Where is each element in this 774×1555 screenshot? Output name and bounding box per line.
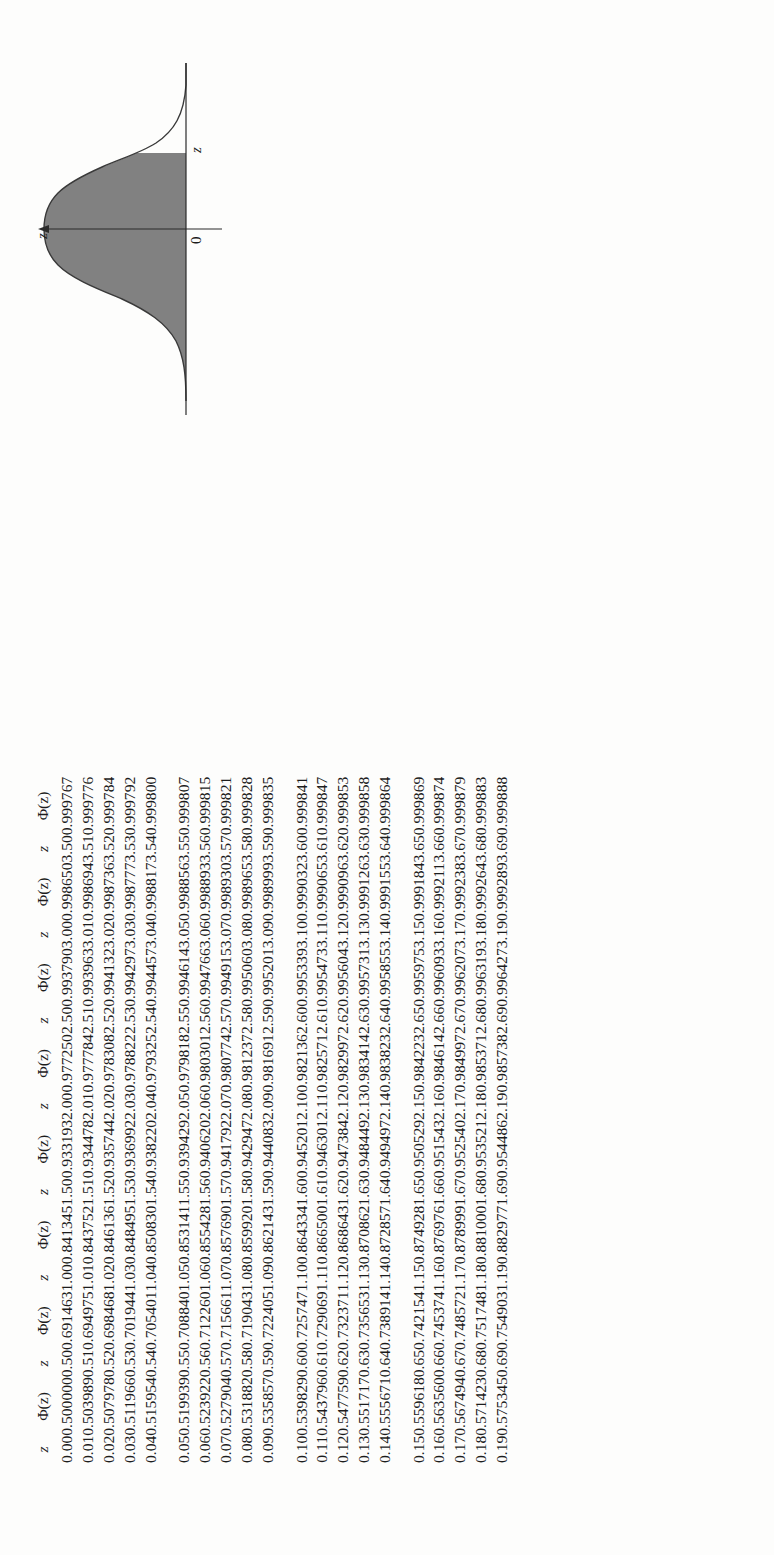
spacer-cell	[396, 921, 409, 948]
cell-z: 1.17	[450, 1264, 471, 1291]
cell-z: 1.56	[195, 1178, 216, 1205]
cell-phi: 0.751748	[471, 1291, 492, 1349]
cell-phi: 0.698468	[99, 1291, 120, 1349]
cell-z: 0.55	[174, 1350, 195, 1377]
header-row: zΦ(z)zΦ(z)zΦ(z)zΦ(z)zΦ(z)zΦ(z)zΦ(z)zΦ(z)	[34, 777, 57, 1463]
spacer-cell	[396, 863, 409, 921]
cell-phi: 0.996427	[492, 948, 513, 1006]
table-row: 0.040.5159540.540.7054011.040.8508301.54…	[141, 777, 162, 1463]
cell-z: 0.65	[409, 1350, 430, 1377]
cell-z: 3.65	[409, 835, 430, 862]
cell-z: 2.10	[292, 1093, 313, 1120]
cell-z: 3.50	[57, 835, 78, 862]
col-header-z-0.50: z	[34, 1350, 57, 1377]
spacer-cell	[279, 1034, 292, 1092]
cell-z: 1.08	[237, 1264, 258, 1291]
cell-z: 3.54	[141, 835, 162, 862]
cell-phi: 0.980774	[216, 1034, 237, 1092]
cell-phi: 0.874928	[409, 1206, 430, 1264]
cell-z: 0.10	[292, 1436, 313, 1463]
cell-phi: 0.999784	[99, 777, 120, 835]
cell-phi: 0.999858	[354, 777, 375, 835]
cell-z: 3.68	[471, 835, 492, 862]
col-header-phi-2.00: Φ(z)	[34, 1034, 57, 1092]
cell-phi: 0.999847	[312, 777, 333, 835]
cell-z: 1.14	[375, 1264, 396, 1291]
cell-phi: 0.745374	[429, 1291, 450, 1349]
spacer-cell	[396, 1436, 409, 1463]
cell-phi: 0.999155	[375, 863, 396, 921]
cell-z: 1.15	[409, 1264, 430, 1291]
cell-z: 2.08	[237, 1093, 258, 1120]
cell-z: 1.06	[195, 1264, 216, 1291]
cell-phi: 0.999776	[78, 777, 99, 835]
normal-curve-svg	[36, 43, 226, 415]
cell-phi: 0.999828	[237, 777, 258, 835]
cell-z: 1.18	[471, 1264, 492, 1291]
table-group-spacer	[396, 777, 409, 1463]
cell-z: 1.00	[57, 1264, 78, 1291]
cell-z: 2.11	[312, 1093, 333, 1120]
cell-phi: 0.846136	[99, 1206, 120, 1264]
cell-phi: 0.939429	[174, 1120, 195, 1178]
cell-z: 0.11	[312, 1436, 333, 1463]
spacer-cell	[279, 1007, 292, 1034]
cell-phi: 0.571423	[471, 1377, 492, 1435]
cell-z: 1.16	[429, 1264, 450, 1291]
cell-phi: 0.999807	[174, 777, 195, 835]
cell-phi: 0.998930	[216, 863, 237, 921]
cell-z: 3.06	[195, 921, 216, 948]
cell-phi: 0.701944	[120, 1291, 141, 1349]
cell-z: 3.18	[471, 921, 492, 948]
cell-phi: 0.722405	[258, 1291, 279, 1349]
cell-phi: 0.872857	[375, 1206, 396, 1264]
cell-z: 2.04	[141, 1093, 162, 1120]
spacer-cell	[161, 1007, 174, 1034]
table-row: 0.150.5596180.650.7421541.150.8749281.65…	[409, 777, 430, 1463]
col-header-z-1.00: z	[34, 1264, 57, 1291]
cell-z: 2.68	[471, 1007, 492, 1034]
spacer-cell	[396, 1007, 409, 1034]
cell-z: 3.00	[57, 921, 78, 948]
cell-z: 0.51	[78, 1350, 99, 1377]
cell-phi: 0.859920	[237, 1206, 258, 1264]
cell-z: 1.10	[292, 1264, 313, 1291]
table-row: 0.010.5039890.510.6949751.010.8437521.51…	[78, 777, 99, 1463]
cell-z: 3.01	[78, 921, 99, 948]
cell-z: 1.51	[78, 1178, 99, 1205]
cell-phi: 0.531882	[237, 1377, 258, 1435]
cell-z: 0.16	[429, 1436, 450, 1463]
cell-z: 1.03	[120, 1264, 141, 1291]
cell-z: 2.60	[292, 1007, 313, 1034]
cell-phi: 0.995339	[292, 948, 313, 1006]
cell-phi: 0.841345	[57, 1206, 78, 1264]
cell-phi: 0.511966	[120, 1377, 141, 1435]
table-row: 0.120.5477590.620.7323711.120.8686431.62…	[333, 777, 354, 1463]
cell-phi: 0.729069	[312, 1291, 333, 1349]
spacer-cell	[161, 1291, 174, 1349]
cell-phi: 0.705401	[141, 1291, 162, 1349]
cell-phi: 0.862143	[258, 1206, 279, 1264]
cell-phi: 0.994915	[216, 948, 237, 1006]
cell-phi: 0.551717	[354, 1377, 375, 1435]
cell-z: 2.15	[409, 1093, 430, 1120]
cell-z: 0.19	[492, 1436, 513, 1463]
cell-phi: 0.994132	[99, 948, 120, 1006]
cell-z: 2.54	[141, 1007, 162, 1034]
cell-z: 1.07	[216, 1264, 237, 1291]
spacer-cell	[279, 835, 292, 862]
standard-normal-curve-figure: 0 z z	[36, 43, 226, 415]
cell-z: 2.00	[57, 1093, 78, 1120]
cell-phi: 0.985371	[471, 1034, 492, 1092]
table-row: 0.070.5279040.570.7156611.070.8576901.57…	[216, 777, 237, 1463]
cell-phi: 0.935744	[99, 1120, 120, 1178]
table-row: 0.030.5119660.530.7019441.030.8484951.53…	[120, 777, 141, 1463]
cell-phi: 0.998893	[195, 863, 216, 921]
z-table-container: zΦ(z)zΦ(z)zΦ(z)zΦ(z)zΦ(z)zΦ(z)zΦ(z)zΦ(z)…	[34, 777, 513, 1463]
cell-phi: 0.853141	[174, 1206, 195, 1264]
cell-z: 1.65	[409, 1178, 430, 1205]
cell-phi: 0.999032	[292, 863, 313, 921]
spacer-cell	[279, 1436, 292, 1463]
cell-z: 3.55	[174, 835, 195, 862]
cell-phi: 0.998999	[258, 863, 279, 921]
